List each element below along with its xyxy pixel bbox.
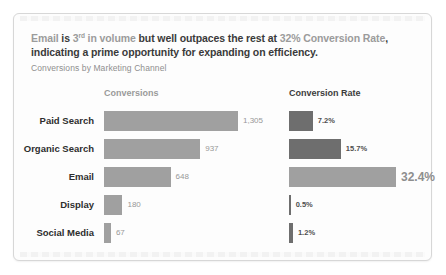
- rate-value: 15.7%: [346, 144, 367, 153]
- row-label-paid-search: Paid Search: [31, 111, 104, 131]
- conversion-rate-column-header: Conversion Rate: [289, 88, 435, 98]
- conversions-track: 180: [104, 195, 289, 215]
- conversions-value: 648: [176, 172, 189, 181]
- conversions-bar-paid-search: [104, 111, 238, 131]
- headline-muted-rate: 32% Conversion Rate: [280, 32, 385, 44]
- rate-bar-social-media: [289, 223, 293, 243]
- rate-bar-paid-search: [289, 111, 313, 131]
- rate-value: 7.2%: [318, 116, 335, 125]
- chart-card: Email is 3rd in volume but well outpaces…: [13, 13, 432, 261]
- screenshot: Email is 3rd in volume but well outpaces…: [0, 0, 446, 275]
- conversions-track: 648: [104, 167, 289, 187]
- rate-value-highlight: 32.4%: [401, 170, 435, 184]
- conversions-bar-email: [104, 167, 171, 187]
- rate-track: 1.2%: [289, 223, 435, 243]
- conversions-track: 67: [104, 223, 289, 243]
- row-label-social-media: Social Media: [31, 223, 104, 243]
- card-top-texture: [20, 16, 425, 21]
- conversions-value: 937: [205, 144, 218, 153]
- rate-value: 0.5%: [296, 200, 313, 209]
- dual-bar-chart: Conversions Conversion Rate Paid Search …: [31, 88, 415, 251]
- conversions-value: 180: [127, 200, 140, 209]
- rate-track: 32.4%: [289, 167, 435, 187]
- rate-bar-display: [289, 195, 291, 215]
- conversions-value: 67: [116, 228, 125, 237]
- rate-value: 1.2%: [298, 228, 315, 237]
- conversions-bar-social-media: [104, 223, 111, 243]
- headline-muted-involume: in volume: [85, 32, 139, 44]
- headline-strong-is: is: [61, 32, 72, 44]
- conversions-bar-organic-search: [104, 139, 200, 159]
- chart-headline: Email is 3rd in volume but well outpaces…: [31, 32, 423, 60]
- conversions-track: 1,305: [104, 111, 289, 131]
- conversions-column-header: Conversions: [104, 88, 289, 98]
- headline-muted-email: Email: [31, 32, 61, 44]
- row-label-display: Display: [31, 195, 104, 215]
- conversions-value: 1,305: [243, 116, 263, 125]
- rate-bar-email-highlight: [289, 167, 396, 187]
- chart-subtitle: Conversions by Marketing Channel: [31, 63, 415, 73]
- card-bottom-texture: [20, 252, 425, 257]
- conversions-track: 937: [104, 139, 289, 159]
- rate-track: 0.5%: [289, 195, 435, 215]
- conversions-bar-display: [104, 195, 122, 215]
- rate-track: 7.2%: [289, 111, 435, 131]
- row-label-organic-search: Organic Search: [31, 139, 104, 159]
- headline-strong-outpaces: but well outpaces the rest at: [139, 32, 280, 44]
- rate-track: 15.7%: [289, 139, 435, 159]
- rate-bar-organic-search: [289, 139, 341, 159]
- row-label-email: Email: [31, 167, 104, 187]
